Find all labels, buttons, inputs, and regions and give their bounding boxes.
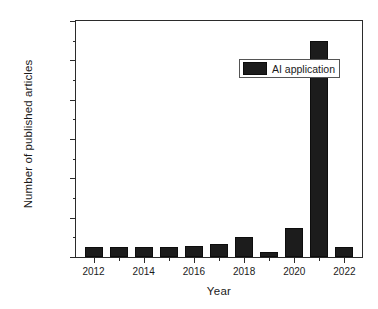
bar xyxy=(160,247,178,257)
y-axis-tick xyxy=(70,257,76,258)
x-axis-tick-label: 2012 xyxy=(71,266,117,277)
x-axis-tick xyxy=(344,257,345,263)
x-axis-tick-label: 2016 xyxy=(171,266,217,277)
chart-figure: Number of published articles Year 0.02.0… xyxy=(0,0,378,309)
x-axis-minor-tick xyxy=(169,257,170,261)
x-axis-tick xyxy=(194,257,195,263)
legend-label-ai-application: AI application xyxy=(272,63,335,75)
y-axis-minor-tick xyxy=(73,237,77,238)
plot-frame: 0.02.0x1054.0x1056.0x1058.0x1051.0x1061.… xyxy=(75,20,363,258)
x-axis-title: Year xyxy=(75,285,363,297)
bar xyxy=(135,247,153,257)
x-axis-tick xyxy=(294,257,295,263)
bar xyxy=(260,252,278,257)
x-axis-minor-tick xyxy=(269,257,270,261)
y-axis-minor-tick xyxy=(73,159,77,160)
chart-legend: AI application xyxy=(239,59,340,78)
y-axis-minor-tick xyxy=(73,198,77,199)
y-axis-tick xyxy=(70,218,76,219)
x-axis-tick xyxy=(144,257,145,263)
bar xyxy=(235,237,253,257)
x-axis-tick xyxy=(94,257,95,263)
y-axis-tick xyxy=(70,21,76,22)
bar xyxy=(110,247,128,257)
y-axis-minor-tick xyxy=(73,80,77,81)
x-axis-tick xyxy=(244,257,245,263)
x-axis-minor-tick xyxy=(219,257,220,261)
y-axis-minor-tick xyxy=(73,41,77,42)
y-axis-tick xyxy=(70,139,76,140)
y-axis-minor-tick xyxy=(73,119,77,120)
y-axis-title: Number of published articles xyxy=(22,34,34,234)
bar xyxy=(335,247,353,257)
y-axis-tick xyxy=(70,60,76,61)
bar xyxy=(285,228,303,258)
y-axis-tick xyxy=(70,100,76,101)
x-axis-tick-label: 2018 xyxy=(221,266,267,277)
legend-swatch-ai-application xyxy=(243,62,267,75)
x-axis-minor-tick xyxy=(119,257,120,261)
bar xyxy=(210,244,228,257)
plot-area: 0.02.0x1054.0x1056.0x1058.0x1051.0x1061.… xyxy=(76,21,362,257)
x-axis-tick-label: 2020 xyxy=(271,266,317,277)
x-axis-minor-tick xyxy=(319,257,320,261)
x-axis-tick-label: 2014 xyxy=(121,266,167,277)
bar xyxy=(185,246,203,257)
bar xyxy=(85,247,103,257)
y-axis-tick xyxy=(70,178,76,179)
x-axis-tick-label: 2022 xyxy=(321,266,367,277)
